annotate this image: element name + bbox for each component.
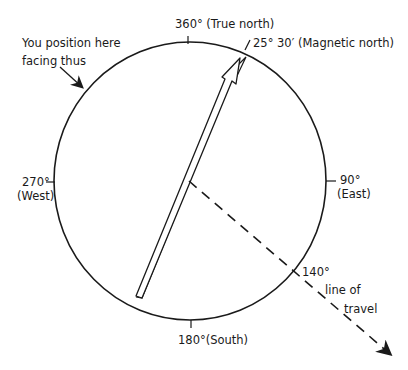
travel-label-line2: travel [344, 302, 377, 316]
position-label-line1: You position here [21, 36, 121, 50]
magnetic-north-label: 25° 30′ (Magnetic north) [253, 36, 394, 50]
west-degree-label: 270° [22, 175, 50, 189]
compass-diagram: 360° (True north) 25° 30′ (Magnetic nort… [0, 0, 408, 370]
position-pointer [60, 67, 82, 87]
position-label-line2: facing thus [22, 54, 86, 68]
magnetic-tick [245, 40, 250, 50]
travel-label-line1: line of [325, 283, 361, 297]
magnetic-needle [136, 57, 246, 298]
west-name-label: (West) [17, 189, 54, 203]
east-degree-label: 90° [340, 173, 360, 187]
east-name-label: (East) [337, 187, 371, 201]
bearing-140-label: 140° [302, 265, 330, 279]
true-north-label: 360° (True north) [175, 17, 274, 31]
line-of-travel [189, 181, 390, 354]
south-label: 180°(South) [178, 333, 248, 347]
